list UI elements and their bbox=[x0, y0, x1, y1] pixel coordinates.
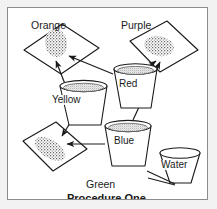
cup-label-yellow: Yellow bbox=[51, 95, 82, 105]
figure-procedure-one: Orange Purple Green Yellow Red Blue Wate… bbox=[0, 0, 217, 209]
cup-label-blue: Blue bbox=[113, 136, 135, 146]
arrow-red-to-orange bbox=[69, 56, 113, 74]
slide-label-green: Green bbox=[86, 179, 115, 190]
cup-red-liquid bbox=[117, 66, 153, 74]
cup-blue-liquid bbox=[108, 123, 147, 131]
cup-label-red: Red bbox=[118, 79, 138, 89]
cup-yellow-liquid bbox=[64, 83, 104, 91]
slide-label-orange: Orange bbox=[31, 20, 66, 31]
cup-water-rim bbox=[160, 148, 200, 158]
figure-caption: Procedure One bbox=[67, 193, 146, 200]
slide-green bbox=[23, 122, 87, 171]
slide-orange bbox=[24, 24, 99, 74]
figure-frame: Orange Purple Green Yellow Red Blue Wate… bbox=[7, 7, 208, 200]
diagram-canvas bbox=[8, 8, 207, 199]
cup-label-water: Water bbox=[160, 160, 188, 170]
slide-label-purple: Purple bbox=[121, 20, 151, 31]
